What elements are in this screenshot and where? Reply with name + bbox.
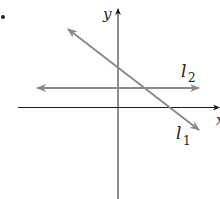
x-axis-label: x: [216, 111, 220, 129]
l1-label: l: [176, 123, 181, 143]
l2-subscript: 2: [188, 71, 196, 85]
l2-label: l: [181, 61, 186, 81]
l1-subscript: 1: [183, 134, 191, 148]
bullet-icon: [1, 15, 5, 19]
y-axis-label: y: [102, 5, 112, 23]
line-l1: [68, 29, 199, 130]
